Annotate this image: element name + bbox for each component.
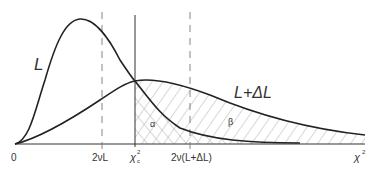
chi-axis-symbol: χ xyxy=(353,151,361,163)
curve-L-label: L xyxy=(34,55,43,74)
tick-label-critical: χ 2 c xyxy=(129,149,141,164)
chi-axis-sup: 2 xyxy=(362,149,366,155)
chi-square-diagram: L L+ΔL α β 0 2νL χ 2 c 2ν(L+ΔL) χ 2 xyxy=(0,0,377,171)
chi-sub: c xyxy=(137,158,140,164)
tick-label-2nuL: 2νL xyxy=(92,152,109,163)
alpha-label: α xyxy=(150,119,155,129)
origin-label: 0 xyxy=(11,152,17,163)
beta-label: β xyxy=(228,117,233,127)
chi-symbol: χ xyxy=(129,151,137,163)
chi-sup: 2 xyxy=(137,149,141,155)
curve-L-dL-label: L+ΔL xyxy=(234,84,272,101)
tick-label-2nu-L-dL: 2ν(L+ΔL) xyxy=(171,152,212,163)
axis-end-label: χ 2 xyxy=(353,149,366,163)
